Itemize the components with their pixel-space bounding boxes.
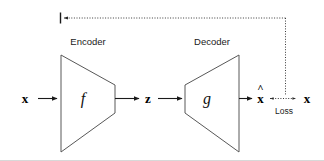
loss-label: Loss — [275, 106, 293, 116]
encoder-shape — [61, 55, 115, 152]
figure-canvas: x Encoder f z Decoder g ^ x x — [0, 0, 324, 161]
encoder-function-f: f — [81, 90, 88, 108]
target-variable-x: x — [304, 91, 311, 106]
gradient-feedback-path — [61, 13, 286, 96]
decoder-shape — [185, 55, 239, 152]
decoder-block: Decoder g — [185, 36, 239, 152]
autoencoder-diagram: x Encoder f z Decoder g ^ x x — [0, 0, 324, 161]
xhat-letter: x — [257, 91, 264, 106]
input-variable-x: x — [22, 91, 29, 106]
encoder-block: Encoder f — [61, 36, 115, 152]
encoder-title: Encoder — [70, 36, 105, 47]
reconstruction-variable-xhat: ^ x — [257, 82, 264, 106]
decoder-function-g: g — [203, 90, 211, 108]
decoder-title: Decoder — [194, 36, 230, 47]
latent-variable-z: z — [145, 91, 151, 106]
